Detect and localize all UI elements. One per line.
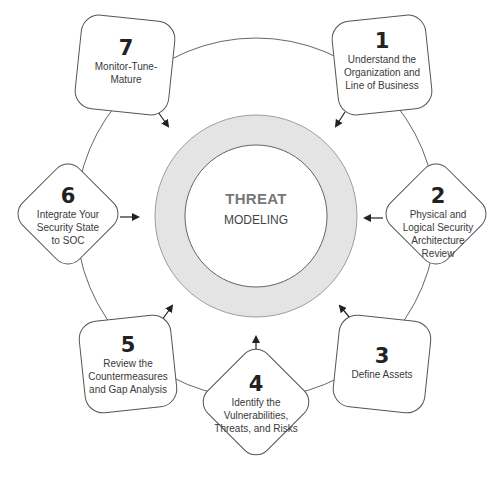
arrow-5 — [162, 306, 172, 320]
arrow-1 — [336, 112, 345, 126]
step-2: 2 Physical and Logical Security Architec… — [386, 184, 490, 260]
center-title-main: THREAT — [186, 190, 326, 207]
step-6: 6 Integrate Your Security State to SOC — [14, 184, 122, 247]
center-title: THREAT MODELING — [186, 190, 326, 227]
arrow-7 — [158, 112, 168, 126]
step-5: 5 Review the Countermeasures and Gap Ana… — [78, 333, 178, 396]
arrow-3 — [340, 306, 350, 318]
center-title-sub: MODELING — [186, 213, 326, 227]
step-4: 4 Identify the Vulnerabilities, Threats,… — [200, 372, 312, 435]
step-1: 1 Understand the Organization and Organi… — [330, 29, 434, 92]
step-7: 7 Monitor-Tune- Mature — [80, 36, 172, 86]
step-3: 3 Define Assets — [336, 344, 428, 381]
